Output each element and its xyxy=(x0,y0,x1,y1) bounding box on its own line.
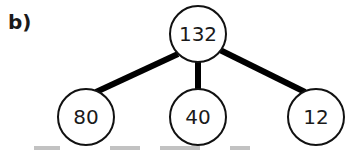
cutoff-text-fragment xyxy=(34,146,60,150)
edge-root-to-12 xyxy=(220,50,305,92)
node-child-2: 40 xyxy=(170,89,226,145)
tree-diagram: 132 80 40 12 xyxy=(0,0,348,150)
node-child-3-value: 12 xyxy=(303,105,328,129)
node-root-value: 132 xyxy=(179,22,217,46)
node-child-2-value: 40 xyxy=(185,105,210,129)
node-root: 132 xyxy=(170,6,226,62)
edge-root-to-80 xyxy=(96,54,178,92)
cutoff-text-fragment xyxy=(110,146,140,150)
cutoff-text-fragment xyxy=(230,146,250,150)
node-child-1-value: 80 xyxy=(73,105,98,129)
node-child-3: 12 xyxy=(288,89,344,145)
cutoff-text-fragment xyxy=(160,146,200,150)
node-child-1: 80 xyxy=(58,89,114,145)
